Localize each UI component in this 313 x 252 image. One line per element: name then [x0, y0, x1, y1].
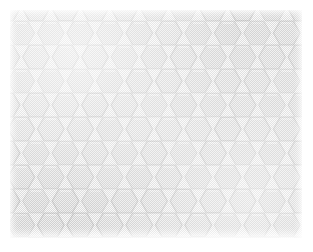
hexagon-highlight — [252, 70, 263, 72]
hexagon-tile — [96, 117, 123, 141]
hexagon-highlight — [104, 166, 115, 168]
hexagon-highlight — [163, 70, 174, 72]
hexagon-highlight — [134, 118, 145, 120]
hexagon-highlight — [208, 142, 219, 144]
hexagon-tile — [259, 45, 286, 69]
hexagon-highlight — [45, 166, 56, 168]
hexagon-tile — [155, 117, 182, 141]
hexagon-highlight — [60, 142, 71, 144]
hexagon-tile — [214, 117, 241, 141]
hexagon-tile — [244, 21, 271, 45]
hexagon-highlight — [16, 166, 27, 168]
hexagon-tile — [10, 21, 35, 45]
hexagon-highlight — [134, 70, 145, 72]
hexagon-tile — [111, 45, 138, 69]
hexagon-highlight — [281, 214, 292, 216]
hexagon-highlight — [149, 94, 160, 96]
hexagon-tile — [214, 69, 241, 93]
hexagon-highlight — [237, 190, 248, 192]
hexagon-tile — [82, 93, 109, 117]
hexagon-highlight — [296, 190, 302, 192]
hexagon-highlight — [237, 94, 248, 96]
hexagon-highlight — [193, 22, 204, 24]
hexagon-highlight — [104, 118, 115, 120]
hexagon-tile — [200, 93, 227, 117]
hexagon-tile — [10, 69, 35, 93]
hexagon-highlight — [119, 94, 130, 96]
hexagon-highlight — [75, 70, 86, 72]
hexagon-highlight — [31, 190, 42, 192]
hexagon-tile — [273, 69, 300, 93]
hexagon-highlight — [163, 118, 174, 120]
hexagon-highlight — [193, 214, 204, 216]
hexagon-tile — [214, 213, 241, 237]
hexagon-highlight — [45, 118, 56, 120]
hexagon-tile — [288, 189, 302, 213]
hexagon-highlight — [104, 70, 115, 72]
hexagon-tile — [82, 141, 109, 165]
hexagon-highlight — [267, 190, 278, 192]
hexagon-highlight — [178, 46, 189, 48]
hexagon-tile — [82, 189, 109, 213]
hexagon-highlight — [267, 142, 278, 144]
hexagon-tile — [52, 141, 79, 165]
hexagon-tile — [170, 45, 197, 69]
hexagon-highlight — [119, 142, 130, 144]
hexagon-tile — [23, 93, 50, 117]
texture-canvas — [0, 0, 313, 252]
hexagon-tile — [10, 93, 20, 117]
hexagon-tile — [82, 45, 109, 69]
hexagon-tile — [229, 141, 256, 165]
hexagon-tile — [141, 93, 168, 117]
hexagon-highlight — [75, 22, 86, 24]
hexagon-tile — [155, 213, 182, 237]
hexagon-tile — [37, 21, 64, 45]
hexagon-highlight — [193, 70, 204, 72]
hexagon-tile — [273, 213, 300, 237]
hexagon-tile — [229, 45, 256, 69]
hexagon-highlight — [134, 22, 145, 24]
hexagon-tile — [111, 189, 138, 213]
hexagon-tile — [155, 69, 182, 93]
hexagon-tile — [37, 165, 64, 189]
hexagon-highlight — [296, 94, 302, 96]
hexagon-tile — [10, 117, 35, 141]
hexagon-tile — [185, 21, 212, 45]
hexagon-highlight — [193, 166, 204, 168]
hexagon-tile — [185, 117, 212, 141]
hexagon-highlight — [267, 94, 278, 96]
hexagon-highlight — [252, 166, 263, 168]
hexagon-tile — [185, 213, 212, 237]
hexagon-highlight — [193, 118, 204, 120]
hexagon-tile — [200, 141, 227, 165]
hexagon-tile — [96, 21, 123, 45]
hexagon-tile — [23, 189, 50, 213]
hexagon-highlight — [16, 22, 27, 24]
hexagon-tile — [52, 45, 79, 69]
hexagon-tile — [141, 141, 168, 165]
hexagon-tile — [288, 45, 302, 69]
hexagon-tile — [111, 141, 138, 165]
hexagon-highlight — [45, 70, 56, 72]
hexagon-highlight — [208, 94, 219, 96]
hexagon-highlight — [252, 22, 263, 24]
honeycomb-swatch — [10, 10, 302, 238]
hexagon-highlight — [222, 70, 233, 72]
hexagon-highlight — [281, 166, 292, 168]
hexagon-tile — [200, 10, 227, 21]
hexagon-tile — [288, 141, 302, 165]
hexagon-highlight — [90, 46, 101, 48]
hexagon-highlight — [60, 46, 71, 48]
hexagon-tile — [10, 213, 35, 237]
hexagon-tile — [244, 213, 271, 237]
hexagon-highlight — [281, 22, 292, 24]
hexagon-tile — [82, 10, 109, 21]
hexagon-highlight — [31, 142, 42, 144]
hexagon-tile — [273, 165, 300, 189]
hexagon-tile — [185, 165, 212, 189]
hexagon-tile — [126, 69, 153, 93]
hexagon-tile — [10, 237, 20, 238]
hexagon-tile — [111, 10, 138, 21]
hexagon-tile — [259, 10, 286, 21]
hexagon-lattice-svg — [10, 10, 302, 238]
